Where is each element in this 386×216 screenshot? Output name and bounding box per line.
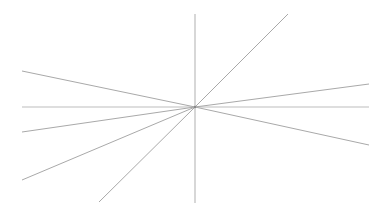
ray-upper-right-shallow bbox=[195, 84, 369, 107]
ray-lower-left-medium bbox=[22, 107, 195, 180]
lines-group bbox=[22, 14, 369, 203]
center-point bbox=[194, 106, 196, 108]
radiating-lines-diagram bbox=[0, 0, 386, 216]
ray-upper-left-shallow bbox=[22, 71, 195, 107]
ray-lower-right-shallow bbox=[195, 107, 369, 145]
ray-upper-right-steep bbox=[195, 14, 288, 107]
ray-lower-left-steep bbox=[99, 107, 195, 202]
ray-lower-left-shallow bbox=[22, 107, 195, 132]
